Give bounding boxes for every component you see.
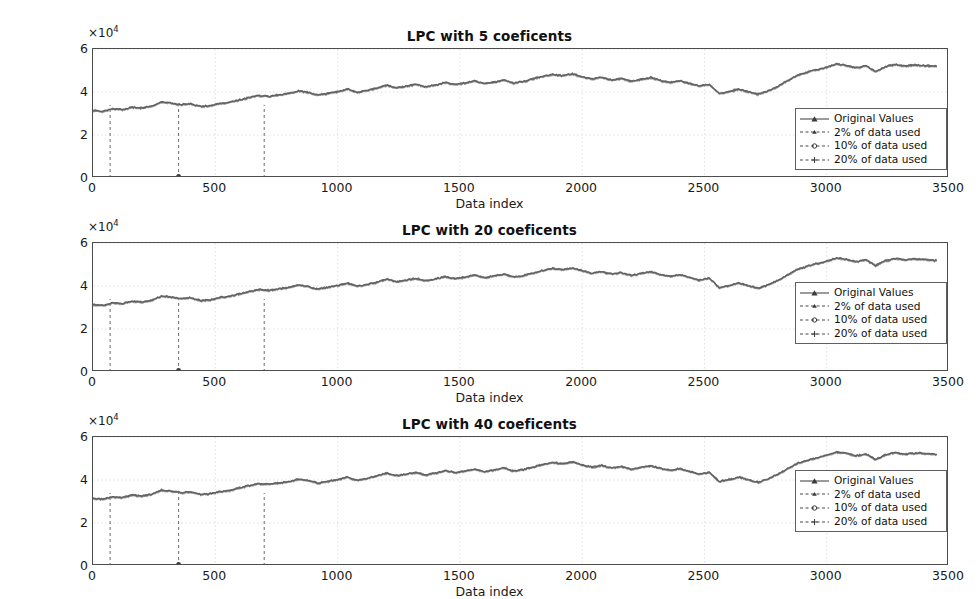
legend: Original Values2% of data used10% of dat…: [795, 282, 947, 344]
legend-marker-circle-icon: [799, 140, 830, 152]
legend-label: 2% of data used: [834, 300, 920, 314]
legend-label: 10% of data used: [834, 139, 927, 153]
x-tick-label: 0: [88, 374, 96, 389]
x-tick-label: 0: [88, 568, 96, 583]
segment-marker-dot: [176, 174, 181, 177]
y-axis-multiplier: ×104: [88, 24, 119, 40]
legend-entry[interactable]: 2% of data used: [799, 488, 942, 502]
legend: Original Values2% of data used10% of dat…: [795, 470, 947, 532]
legend-entry[interactable]: Original Values: [799, 286, 942, 300]
legend-label: 20% of data used: [834, 153, 927, 167]
legend-entry[interactable]: Original Values: [799, 112, 942, 126]
x-tick-label: 1500: [443, 374, 475, 389]
legend-entry[interactable]: 10% of data used: [799, 139, 942, 153]
x-tick-label: 3000: [810, 374, 842, 389]
legend-label: 10% of data used: [834, 313, 927, 327]
y-tick-label: 0: [62, 558, 88, 573]
y-tick-labels: 0246: [58, 242, 88, 371]
legend-marker-plus-icon: [799, 328, 830, 340]
x-tick-label: 1000: [321, 568, 353, 583]
subplot-title: LPC with 20 coeficents: [0, 222, 979, 238]
legend-label: 20% of data used: [834, 515, 927, 529]
y-tick-label: 2: [62, 515, 88, 530]
y-axis-multiplier: ×104: [88, 412, 119, 428]
subplot-lpc-40: LPC with 40 coeficents ×104 Close value …: [0, 388, 979, 581]
x-tick-label: 2500: [688, 568, 720, 583]
legend-marker-circle-icon: [799, 502, 830, 514]
legend-entry[interactable]: 20% of data used: [799, 515, 942, 529]
x-tick-label: 1000: [321, 180, 353, 195]
x-tick-label: 3500: [932, 180, 964, 195]
y-tick-label: 0: [62, 170, 88, 185]
legend-entry[interactable]: 20% of data used: [799, 153, 942, 167]
legend-marker-circle-icon: [799, 314, 830, 326]
legend-entry[interactable]: 10% of data used: [799, 501, 942, 515]
y-tick-label: 6: [62, 429, 88, 444]
x-tick-label: 500: [202, 568, 226, 583]
subplot-lpc-5: LPC with 5 coeficents ×104 Close value (…: [0, 0, 979, 193]
y-tick-label: 4: [62, 278, 88, 293]
x-tick-label: 1500: [443, 568, 475, 583]
legend-marker-plus-icon: [799, 516, 830, 528]
x-tick-label: 3000: [810, 180, 842, 195]
y-tick-label: 2: [62, 321, 88, 336]
legend-marker-triangle-small-icon: [799, 126, 830, 138]
x-tick-label: 500: [202, 180, 226, 195]
y-tick-label: 0: [62, 364, 88, 379]
legend-label: 20% of data used: [834, 327, 927, 341]
y-tick-label: 6: [62, 41, 88, 56]
subplot-lpc-20: LPC with 20 coeficents ×104 Close value …: [0, 194, 979, 387]
legend-marker-triangle-icon: [799, 113, 830, 125]
y-tick-labels: 0246: [58, 48, 88, 177]
x-tick-label: 2500: [688, 180, 720, 195]
y-tick-labels: 0246: [58, 436, 88, 565]
y-tick-label: 6: [62, 235, 88, 250]
legend-label: 2% of data used: [834, 488, 920, 502]
segment-marker-dot: [176, 368, 181, 371]
x-tick-label: 2000: [565, 374, 597, 389]
x-tick-label: 2500: [688, 374, 720, 389]
subplot-title: LPC with 40 coeficents: [0, 416, 979, 432]
legend-entry[interactable]: Original Values: [799, 474, 942, 488]
x-tick-label: 3500: [932, 374, 964, 389]
legend-label: Original Values: [834, 286, 913, 300]
legend-label: Original Values: [834, 112, 913, 126]
x-tick-label: 3000: [810, 568, 842, 583]
x-axis-label: Data index: [0, 584, 979, 599]
legend-marker-triangle-icon: [799, 475, 830, 487]
legend-marker-plus-icon: [799, 154, 830, 166]
x-tick-label: 3500: [932, 568, 964, 583]
x-tick-label: 0: [88, 180, 96, 195]
subplot-title: LPC with 5 coeficents: [0, 28, 979, 44]
legend-label: 10% of data used: [834, 501, 927, 515]
y-axis-multiplier: ×104: [88, 218, 119, 234]
x-tick-label: 500: [202, 374, 226, 389]
y-tick-label: 2: [62, 127, 88, 142]
legend: Original Values2% of data used10% of dat…: [795, 108, 947, 170]
y-tick-label: 4: [62, 84, 88, 99]
legend-entry[interactable]: 10% of data used: [799, 313, 942, 327]
y-tick-label: 4: [62, 472, 88, 487]
x-tick-label: 2000: [565, 180, 597, 195]
legend-label: Original Values: [834, 474, 913, 488]
legend-marker-triangle-small-icon: [799, 300, 830, 312]
segment-marker-dot: [176, 562, 181, 565]
x-tick-label: 1000: [321, 374, 353, 389]
legend-entry[interactable]: 2% of data used: [799, 300, 942, 314]
legend-label: 2% of data used: [834, 126, 920, 140]
x-tick-label: 1500: [443, 180, 475, 195]
legend-marker-triangle-icon: [799, 287, 830, 299]
x-tick-label: 2000: [565, 568, 597, 583]
legend-marker-triangle-small-icon: [799, 488, 830, 500]
legend-entry[interactable]: 2% of data used: [799, 126, 942, 140]
legend-entry[interactable]: 20% of data used: [799, 327, 942, 341]
